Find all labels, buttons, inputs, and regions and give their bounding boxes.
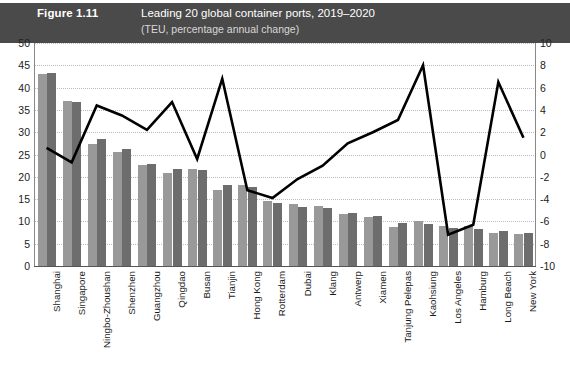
percentage-change-line bbox=[34, 43, 536, 267]
x-axis-label: Hamburg bbox=[477, 271, 488, 311]
y-tick-left: 5 bbox=[4, 238, 30, 250]
x-axis-category-labels: ShanghaiSingaporeNingbo-ZhoushanShenzhen… bbox=[34, 271, 536, 363]
y-tick-left: 0 bbox=[4, 260, 30, 272]
y-tick-right: -6 bbox=[540, 215, 566, 227]
figure-number: Figure 1.11 bbox=[37, 7, 98, 19]
figure-container: Figure 1.11 Leading 20 global container … bbox=[0, 0, 570, 378]
y-tick-right: 0 bbox=[540, 149, 566, 161]
x-axis-label: Rotterdam bbox=[276, 271, 287, 316]
y-tick-left: 10 bbox=[4, 215, 30, 227]
x-axis-label: Ningbo-Zhoushan bbox=[101, 271, 112, 348]
x-axis-label: Xiamen bbox=[377, 271, 388, 304]
y-tick-right: 4 bbox=[540, 104, 566, 116]
x-axis-label: Tianjin bbox=[226, 271, 237, 299]
plot-canvas bbox=[34, 43, 536, 267]
y-tick-left: 45 bbox=[4, 59, 30, 71]
y-tick-left: 50 bbox=[4, 37, 30, 49]
y-tick-right: 8 bbox=[540, 59, 566, 71]
y-tick-right: 10 bbox=[540, 37, 566, 49]
x-axis-label: Hong Kong bbox=[251, 271, 262, 319]
x-axis-label: New York bbox=[527, 271, 538, 312]
x-axis-label: Klang bbox=[327, 271, 338, 296]
figure-header-band: Figure 1.11 Leading 20 global container … bbox=[0, 3, 570, 43]
x-axis-label: Antwerp bbox=[352, 271, 363, 307]
x-axis-baseline bbox=[34, 266, 536, 267]
y-axis-left: 50454035302520151050 bbox=[4, 43, 30, 267]
y-tick-left: 40 bbox=[4, 82, 30, 94]
y-tick-left: 30 bbox=[4, 126, 30, 138]
y-tick-right: -4 bbox=[540, 193, 566, 205]
x-axis-label: Dubai bbox=[302, 271, 313, 296]
x-axis-label: Long Beach bbox=[502, 271, 513, 323]
x-axis-label: Shanghai bbox=[51, 271, 62, 312]
y-tick-left: 15 bbox=[4, 193, 30, 205]
x-axis-label: Busan bbox=[201, 271, 212, 298]
x-axis-label: Shenzhen bbox=[126, 271, 137, 315]
x-axis-label: Qingdao bbox=[176, 271, 187, 308]
x-axis-label: Singapore bbox=[76, 271, 87, 315]
y-tick-left: 25 bbox=[4, 149, 30, 161]
x-axis-label: Guangzhou bbox=[151, 271, 162, 321]
y-axis-right: 1086420-2-4-6-8-10 bbox=[540, 43, 566, 267]
y-tick-left: 20 bbox=[4, 171, 30, 183]
x-axis-label: Kaohsiung bbox=[427, 271, 438, 317]
x-axis-label: Tanjung Pelepas bbox=[402, 271, 413, 343]
y-tick-right: 6 bbox=[540, 82, 566, 94]
y-tick-right: -8 bbox=[540, 238, 566, 250]
y-tick-right: -2 bbox=[540, 171, 566, 183]
y-tick-right: 2 bbox=[540, 126, 566, 138]
figure-title: Leading 20 global container ports, 2019–… bbox=[141, 7, 375, 19]
x-axis-label: Los Angeles bbox=[452, 271, 463, 324]
y-tick-left: 35 bbox=[4, 104, 30, 116]
figure-subtitle: (TEU, percentage annual change) bbox=[141, 23, 299, 35]
plot-area: 50454035302520151050 1086420-2-4-6-8-10 … bbox=[0, 43, 570, 378]
y-tick-right: -10 bbox=[540, 260, 566, 272]
